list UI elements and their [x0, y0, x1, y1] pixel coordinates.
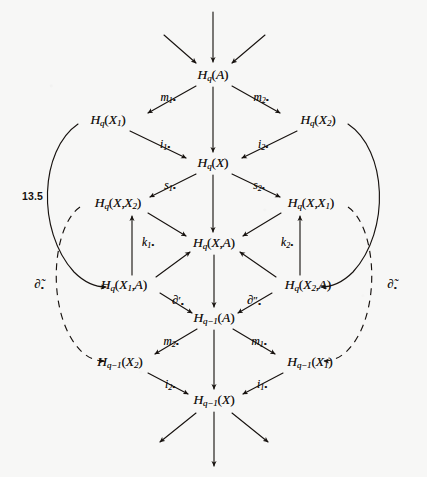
maplabel-k1-star: k1•	[142, 236, 154, 251]
node-hq-x1: Hq(X1)	[90, 112, 125, 129]
maplabel-m1-star-top: m1•	[160, 91, 175, 106]
maplabel-m1-star-bottom: m1•	[251, 335, 266, 350]
diagram-page: 13.5 Hq(A) Hq(X1) Hq(X2) Hq(X) Hq(X,X2) …	[0, 0, 427, 477]
equation-number: 13.5	[22, 190, 43, 202]
node-hq-x-x1: Hq(X,X1)	[288, 195, 334, 212]
maplabel-del-prime-star: ∂′•	[172, 293, 183, 309]
arrow-out-bottom-right	[232, 413, 268, 442]
maplabel-i2-star-bottom: i2•	[165, 378, 175, 393]
node-hq-a: Hq(A)	[198, 67, 229, 84]
arrow-hqxx1-to-hqxa	[243, 213, 281, 236]
curve-tilde-del-right	[324, 207, 372, 361]
arrow-in-top-right	[232, 35, 265, 63]
arrow-hqx1-to-hqx	[130, 131, 186, 158]
maplabel-i1-star-bottom: i1•	[257, 378, 267, 393]
arrow-hqxx2-to-hqxa	[148, 213, 186, 236]
maplabel-s1-star: s1•	[164, 179, 175, 194]
node-hq-x-a: Hq(X,A)	[193, 235, 235, 252]
node-hq-x: Hq(X)	[198, 155, 229, 172]
node-hq-x-x2: Hq(X,X2)	[95, 195, 141, 212]
maplabel-i1-star-top: i1•	[160, 138, 170, 153]
node-hqm1-a: Hq−1(A)	[193, 310, 234, 327]
maplabel-k2-star: k2•	[281, 236, 293, 251]
node-hqm1-x1: Hq−1(X1)	[287, 354, 332, 371]
arrow-hqx2-to-hqx	[242, 131, 297, 158]
maplabel-s2-star: s2•	[253, 179, 264, 194]
maplabel-del-tilde-star-left: ∂̃•	[34, 277, 43, 293]
maplabel-m2-star-top: m2•	[253, 91, 268, 106]
node-hq-x2-a: Hq(X2,A)	[285, 277, 331, 294]
node-hq-x2: Hq(X2)	[300, 112, 335, 129]
maplabel-del-dblprime-star: ∂″•	[247, 293, 261, 309]
node-hqm1-x2: Hq−1(X2)	[97, 354, 142, 371]
maplabel-m2-star-bottom: m2•	[163, 335, 178, 350]
arrow-hqx2a-to-hqxa	[240, 252, 276, 277]
maplabel-i2-star-top: i2•	[258, 138, 268, 153]
curve-tilde-del-left	[56, 207, 104, 361]
arrow-in-top-left	[164, 35, 196, 63]
node-hqm1-x: Hq−1(X)	[193, 392, 234, 409]
node-hq-x1-a: Hq(X1,A)	[101, 277, 147, 294]
maplabel-del-tilde-star-right: ∂̃•	[387, 277, 396, 293]
arrow-hqx1a-to-hqxa	[156, 252, 190, 277]
arrow-out-bottom-left	[160, 413, 196, 442]
